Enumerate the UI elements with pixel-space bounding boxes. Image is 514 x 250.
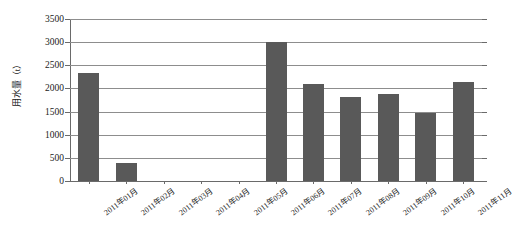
y-axis-tick <box>65 88 70 89</box>
bar <box>78 73 99 181</box>
x-axis-tick-label: 2011年10月 <box>440 187 477 217</box>
y-axis-tick-label: 1000 <box>28 131 64 141</box>
x-axis-tick-label: 2011年06月 <box>290 187 327 217</box>
y-axis-tick <box>65 65 70 66</box>
y-axis-tick-right <box>482 158 487 159</box>
bar <box>340 97 361 181</box>
x-axis-tick-label: 2011年03月 <box>178 187 215 217</box>
y-axis-tick <box>65 158 70 159</box>
y-axis-tick-label: 500 <box>28 154 64 164</box>
y-axis-tick-label: 3500 <box>28 15 64 25</box>
x-axis-tick <box>463 181 464 184</box>
x-axis-tick-label: 2011年04月 <box>215 187 252 217</box>
y-axis-tick-label: 1500 <box>28 108 64 118</box>
y-axis-tick <box>65 135 70 136</box>
x-axis-tick-label: 2011年01月 <box>103 187 140 217</box>
gridline <box>70 19 482 20</box>
x-axis-tick-label: 2011年09月 <box>402 187 439 217</box>
y-axis-tick-label: 2000 <box>28 84 64 94</box>
y-axis-tick <box>65 19 70 20</box>
bar <box>116 163 137 181</box>
x-axis-tick <box>276 181 277 184</box>
x-axis-tick-label: 2011年05月 <box>253 187 290 217</box>
bar <box>453 82 474 182</box>
bar <box>303 84 324 181</box>
y-axis-tick <box>65 42 70 43</box>
y-axis-tick-right <box>482 19 487 20</box>
x-axis-tick-label: 2011年08月 <box>365 187 402 217</box>
y-axis-tick-right <box>482 65 487 66</box>
x-axis-tick <box>126 181 127 184</box>
bar <box>415 113 436 182</box>
y-axis-tick-right <box>482 42 487 43</box>
x-axis-tick-labels: 2011年01月2011年02月2011年03月2011年04月2011年05月… <box>0 181 497 250</box>
x-axis-tick <box>388 181 389 184</box>
x-axis-tick-label: 2011年07月 <box>327 187 364 217</box>
x-axis-tick <box>313 181 314 184</box>
plot-area <box>70 19 482 181</box>
x-axis-tick <box>426 181 427 184</box>
x-axis-tick <box>201 181 202 184</box>
y-axis-tick-label: 3000 <box>28 38 64 48</box>
y-axis-tick-right <box>482 135 487 136</box>
y-axis-tick-right <box>482 112 487 113</box>
bar <box>266 42 287 181</box>
x-axis-tick <box>164 181 165 184</box>
y-axis-tick <box>65 112 70 113</box>
bar <box>378 94 399 181</box>
y-axis-tick-label: 2500 <box>28 61 64 71</box>
x-axis-tick-label: 2011年11月 <box>477 187 513 217</box>
x-axis-tick-label: 2011年02月 <box>140 187 177 217</box>
x-axis-tick <box>89 181 90 184</box>
x-axis-tick <box>351 181 352 184</box>
y-axis-tick-right <box>482 88 487 89</box>
x-axis-tick <box>239 181 240 184</box>
